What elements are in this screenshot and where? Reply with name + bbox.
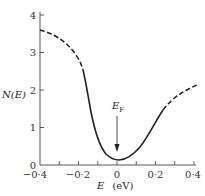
fermi-label-sub: F [119, 106, 124, 114]
x-axis-unit: (eV) [112, 180, 133, 191]
y-tick-label: 1 [30, 122, 36, 133]
x-tick-label: 0 [114, 169, 120, 180]
y-axis-title: N(E) [1, 89, 26, 100]
fermi-level-label: EF [111, 100, 124, 114]
curve-dashed-left [40, 30, 83, 70]
y-axis [40, 12, 44, 165]
x-tick-label: 0·2 [148, 169, 164, 180]
fermi-level-arrow-icon [115, 116, 120, 152]
x-axis-var: E [96, 180, 105, 191]
y-tick-label: 2 [30, 85, 36, 96]
x-tick-label: −0·2 [66, 169, 90, 180]
curve-dashed-right [163, 85, 197, 110]
x-tick-label: −0·4 [23, 169, 47, 180]
y-tick-label: 4 [30, 10, 36, 21]
x-tick-label: 0·4 [185, 169, 201, 180]
chart: 4 3 2 1 0 −0·4 −0·2 0 0·2 0·4 N(E) E (eV… [0, 0, 205, 196]
y-tick-label: 3 [30, 47, 36, 58]
x-axis [40, 161, 196, 165]
curve-solid [83, 70, 163, 160]
